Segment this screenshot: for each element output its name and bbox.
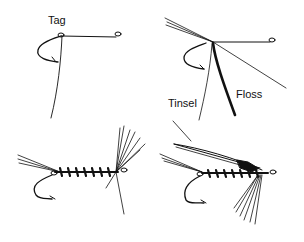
panel-1-hook — [38, 32, 121, 118]
label-floss: Floss — [236, 88, 262, 100]
label-tag: Tag — [48, 14, 66, 26]
fly-illustrations — [0, 0, 304, 242]
fly-tying-diagram: Tag Tinsel Floss — [0, 0, 304, 242]
label-tinsel: Tinsel — [168, 97, 197, 109]
panel-4-fly — [160, 121, 276, 224]
panel-3-fly — [18, 126, 145, 214]
